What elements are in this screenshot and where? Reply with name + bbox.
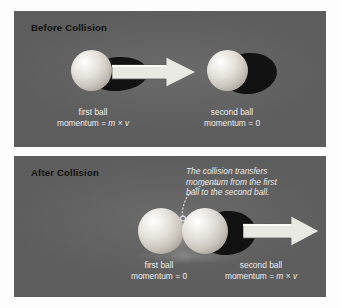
panel-title-before: Before Collision	[31, 22, 107, 33]
first-ball-momentum: momentum = m × v	[28, 118, 158, 129]
second-ball-label: second ball	[240, 260, 282, 270]
first-ball-caption: first ball momentum = m × v	[28, 107, 158, 129]
panel-title-after: After Collision	[31, 167, 99, 178]
second-ball-caption: second ball momentum = 0	[162, 107, 302, 129]
collision-diagram: Before Collision first ball momentum = m…	[0, 0, 340, 308]
second-ball-label: second ball	[211, 107, 253, 117]
panel-before-collision: Before Collision first ball momentum = m…	[14, 11, 326, 147]
first-ball-label: first ball	[145, 260, 174, 270]
second-ball	[207, 50, 248, 91]
motion-arrow-after	[243, 214, 321, 248]
annotation-line-1: The collision transfers	[186, 166, 277, 177]
first-ball-label: first ball	[79, 107, 108, 117]
first-ball-caption: first ball momentum = 0	[106, 260, 212, 282]
symbol-v: v	[125, 118, 129, 128]
symbol-v: v	[293, 271, 297, 281]
motion-arrow-before	[112, 55, 198, 89]
first-ball	[71, 50, 112, 91]
second-ball-momentum: momentum = 0	[162, 118, 302, 129]
first-ball-momentum: momentum = 0	[106, 271, 212, 282]
panel-after-collision: After Collision The collision transfers …	[14, 156, 326, 297]
annotation-leader-line	[162, 180, 222, 222]
second-ball-caption: second ball momentum = m × v	[200, 260, 322, 282]
second-ball-momentum: momentum = m × v	[200, 271, 322, 282]
